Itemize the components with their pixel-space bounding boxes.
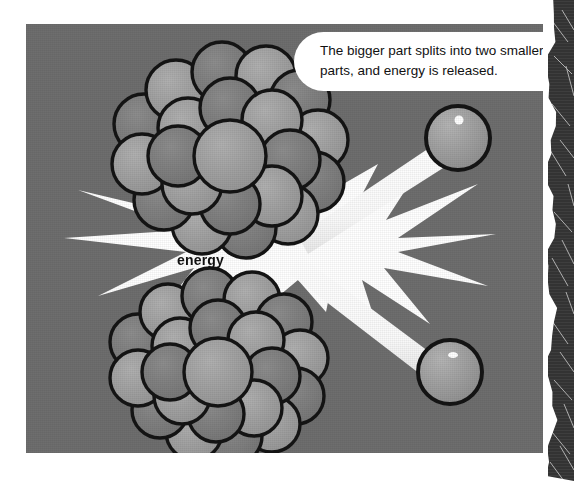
caption-line-1: The bigger part splits into two smaller: [320, 41, 543, 61]
strip-scratches: [548, 0, 574, 481]
energy-label: energy: [177, 252, 224, 268]
nucleus-cluster-bottom: [110, 268, 328, 453]
caption-line-2: parts, and energy is released.: [320, 61, 543, 81]
strip-fill: [548, 0, 574, 481]
illustration-page: energy The bigger part splits into two s…: [0, 0, 574, 481]
page-edge-strip: [548, 0, 574, 481]
illustration-panel: energy The bigger part splits into two s…: [26, 24, 543, 453]
caption-bubble: The bigger part splits into two smaller …: [294, 32, 543, 91]
fragment-particle-bottom: [418, 340, 482, 404]
fragment-particle-top: [426, 106, 490, 170]
